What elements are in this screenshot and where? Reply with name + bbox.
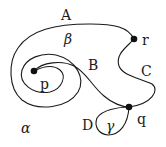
- planar-graph-diagram: A B C D p q r α β γ: [0, 0, 166, 147]
- vertex-q: [126, 104, 133, 111]
- vertex-label-r: r: [142, 32, 149, 48]
- face-label-alpha: α: [21, 120, 31, 136]
- edge-label-b: B: [88, 57, 98, 73]
- face-label-beta: β: [63, 31, 72, 47]
- edge-label-c: C: [141, 63, 152, 79]
- vertex-label-p: p: [40, 76, 49, 92]
- edge-label-d: D: [82, 117, 93, 133]
- vertex-r: [131, 36, 138, 43]
- vertex-label-q: q: [137, 111, 146, 127]
- edge-label-a: A: [60, 7, 72, 23]
- face-label-gamma: γ: [106, 118, 115, 134]
- vertex-p: [31, 68, 38, 75]
